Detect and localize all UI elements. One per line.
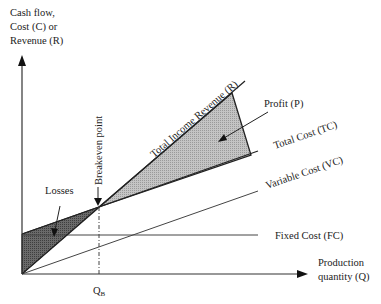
x-axis-arrow-icon (297, 270, 308, 278)
qb-tick-label: QB (93, 285, 106, 298)
qb-subscript: B (101, 290, 106, 298)
y-axis-label-line-1: Cash flow, (10, 6, 63, 20)
x-axis-label: Production quantity (Q) (318, 256, 370, 284)
fixed-cost-line-label: Fixed Cost (FC) (275, 230, 344, 242)
x-axis-label-line-1: Production (318, 256, 370, 270)
y-axis-label-line-3: Revenue (R) (10, 34, 63, 48)
profit-region (99, 93, 251, 207)
breakeven-label: Breakeven point (93, 116, 104, 185)
y-axis-label: Cash flow, Cost (C) or Revenue (R) (10, 6, 63, 48)
y-axis-arrow-icon (18, 55, 26, 66)
profit-label: Profit (P) (264, 98, 304, 110)
variable-cost-line-label: Variable Cost (VC) (264, 154, 345, 192)
breakeven-diagram: Total Income Revenue (R) Total Cost (TC)… (0, 0, 381, 304)
y-axis-label-line-2: Cost (C) or (10, 20, 63, 34)
losses-label: Losses (45, 185, 74, 196)
x-axis-label-line-2: quantity (Q) (318, 270, 370, 284)
total-cost-line-label: Total Cost (TC) (272, 119, 339, 152)
